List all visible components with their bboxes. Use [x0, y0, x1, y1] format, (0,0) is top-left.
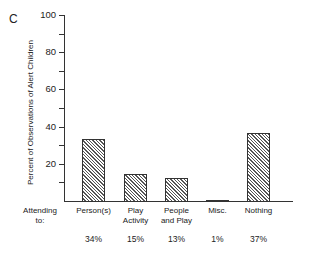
value-label: 37%: [234, 234, 284, 244]
y-tick: [59, 145, 64, 146]
y-tick: [59, 108, 64, 109]
bar: [82, 139, 105, 202]
y-tick-label: 60: [30, 84, 56, 94]
bar: [124, 174, 147, 202]
x-prefix-line2: to:: [14, 216, 66, 226]
y-axis-title: Percent of Observations of Alert Childre…: [26, 13, 35, 213]
y-tick: [59, 164, 64, 165]
bar: [247, 133, 270, 202]
y-tick: [59, 15, 64, 16]
y-tick: [59, 71, 64, 72]
y-tick: [59, 89, 64, 90]
y-tick: [59, 182, 64, 183]
category-label: Nothing: [234, 206, 284, 226]
y-tick-label: 20: [30, 159, 56, 169]
y-tick: [59, 34, 64, 35]
y-tick: [59, 127, 64, 128]
y-tick: [59, 52, 64, 53]
y-tick-label: 40: [30, 122, 56, 132]
y-axis: [64, 15, 65, 202]
x-axis-prefix: Attending to:: [14, 206, 66, 226]
y-tick-label: 80: [30, 47, 56, 57]
bar: [206, 200, 229, 202]
bar: [165, 178, 188, 202]
panel-label: C: [9, 12, 18, 26]
x-prefix-line1: Attending: [14, 206, 66, 216]
y-tick-label: 100: [30, 10, 56, 20]
